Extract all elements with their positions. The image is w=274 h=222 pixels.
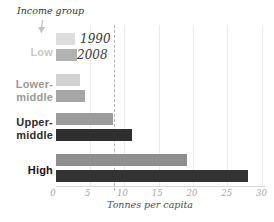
x-tick-label-0: 0	[44, 188, 62, 198]
bar-high-2008	[56, 170, 248, 182]
bar-low-1990	[56, 33, 75, 45]
x-axis-line	[56, 186, 265, 187]
category-label-lower-middle: Lower-middle	[0, 78, 53, 103]
category-label-line: middle	[0, 90, 53, 103]
category-label-high: High	[0, 164, 53, 177]
category-label-line: High	[0, 164, 53, 177]
income-group-bar-chart: Income group LowLower-middleUpper-middle…	[0, 0, 274, 222]
category-label-upper-middle: Upper-middle	[0, 116, 53, 141]
bar-low-2008	[56, 49, 77, 61]
bar-lower-middle-1990	[56, 74, 80, 86]
bar-lower-middle-2008	[56, 90, 85, 102]
gridline-25	[227, 25, 228, 186]
series-label-1990: 1990	[80, 32, 111, 46]
plot-area: LowLower-middleUpper-middleHigh051015202…	[0, 0, 274, 222]
series-label-2008: 2008	[77, 48, 108, 62]
x-tick-label-5: 5	[79, 188, 97, 198]
reference-line	[114, 25, 115, 191]
bar-upper-middle-2008	[56, 129, 132, 141]
x-tick-label-25: 25	[218, 188, 236, 198]
category-label-low: Low	[0, 46, 53, 59]
x-tick-label-20: 20	[183, 188, 201, 198]
x-tick-label-30: 30	[253, 188, 271, 198]
gridline-30	[262, 25, 263, 186]
category-label-line: Upper-	[0, 116, 53, 129]
category-label-line: Lower-	[0, 78, 53, 91]
x-axis-label: Tonnes per capita	[90, 199, 210, 210]
x-tick-label-10: 10	[114, 188, 132, 198]
gridline-20	[193, 25, 194, 186]
bar-high-1990	[56, 154, 187, 166]
category-label-line: Low	[0, 46, 53, 59]
category-label-line: middle	[0, 128, 53, 141]
x-tick-label-15: 15	[148, 188, 166, 198]
bar-upper-middle-1990	[56, 113, 113, 125]
